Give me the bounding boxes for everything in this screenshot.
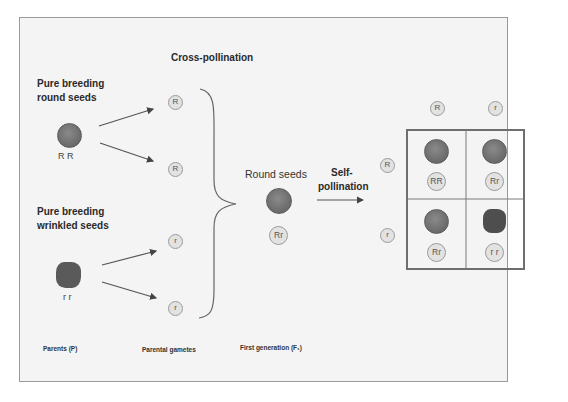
- stage-label-parents: Parents (P): [43, 345, 77, 352]
- round-parent-label-1: Pure breeding: [37, 77, 104, 91]
- wrinkled-parent-genotype: r r: [63, 292, 72, 302]
- punnett-column-gamete: R: [430, 101, 445, 116]
- arrow-icon: [102, 282, 156, 298]
- f1-label: Round seeds: [245, 168, 307, 180]
- round-seed-icon: [424, 209, 449, 234]
- round-seed-icon: [424, 139, 449, 164]
- wrinkled-parent-label-1: Pure breeding: [37, 205, 104, 219]
- round-parent-genotype: R R: [58, 151, 74, 161]
- gamete-circle: R: [168, 162, 183, 177]
- stage-label-gametes: Parental gametes: [142, 346, 196, 353]
- punnett-cell-genotype: r r: [485, 243, 504, 262]
- cross-pollination-label: Cross-pollination: [171, 51, 253, 65]
- punnett-cell-genotype: Rr: [485, 172, 504, 191]
- f1-seed-icon: [266, 188, 292, 214]
- punnett-row-gamete: R: [380, 158, 395, 173]
- round-seed-icon: [57, 123, 82, 148]
- wrinkled-seed-icon: [56, 262, 81, 288]
- gamete-circle: r: [168, 301, 183, 316]
- punnett-cell-genotype: Rr: [427, 243, 446, 262]
- punnett-column-gamete: r: [488, 101, 503, 116]
- brace-icon: [199, 89, 236, 318]
- arrow-icon: [102, 251, 156, 265]
- gamete-circle: r: [168, 234, 183, 249]
- f1-genotype: Rr: [269, 226, 288, 245]
- arrow-icon: [100, 143, 153, 161]
- round-seed-icon: [482, 139, 507, 164]
- self-pollination-label-1: Self-: [331, 166, 353, 180]
- stage-label-f1: First generation (F₁): [240, 344, 302, 351]
- arrow-icon: [99, 109, 153, 126]
- punnett-row-gamete: r: [380, 228, 395, 243]
- wrinkled-seed-icon: [483, 209, 506, 233]
- self-pollination-label-2: pollination: [318, 180, 369, 194]
- round-parent-label-2: round seeds: [37, 91, 96, 105]
- gamete-circle: R: [168, 95, 183, 110]
- wrinkled-parent-label-2: wrinkled seeds: [37, 219, 109, 233]
- punnett-cell-genotype: RR: [427, 172, 446, 191]
